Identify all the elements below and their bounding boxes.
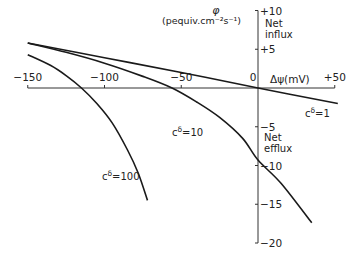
flux-chart: −150−100−500+50+10+5−5−10−15−20cδ=1cδ=10… [0, 0, 354, 253]
net-efflux-line1: Net [264, 132, 282, 143]
series-label: cδ=100 [102, 169, 140, 182]
net-influx-line2: influx [265, 29, 293, 40]
y-axis-units: (pequiv.cm⁻²s⁻¹) [162, 15, 241, 26]
series-label: cδ=1 [305, 106, 330, 119]
x-tick-label: −150 [13, 71, 42, 83]
labels: −150−100−500+50+10+5−5−10−15−20cδ=1cδ=10… [13, 5, 346, 250]
x-axis-title: Δψ(mV) [270, 73, 310, 85]
x-tick-label: −100 [90, 71, 119, 83]
y-tick-label: −5 [260, 121, 275, 133]
x-tick-label: 0 [250, 71, 257, 83]
y-tick-label: −15 [260, 198, 282, 210]
series-label: cδ=10 [172, 125, 203, 138]
net-efflux-line2: efflux [264, 143, 292, 154]
net-influx-line1: Net [265, 18, 283, 29]
y-tick-label: −20 [260, 237, 282, 249]
y-tick-label: +10 [260, 5, 282, 17]
x-tick-label: −50 [170, 71, 192, 83]
y-tick-label: −10 [260, 160, 282, 172]
x-tick-label: +50 [324, 71, 346, 83]
y-tick-label: +5 [260, 43, 275, 55]
